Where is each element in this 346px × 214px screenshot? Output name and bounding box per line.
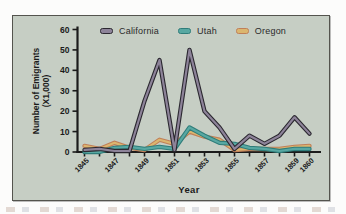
legend-label-utah: Utah [197, 26, 217, 36]
legend-label-california: California [119, 26, 159, 36]
y-tick-label: 20 [60, 106, 70, 116]
figure-frame: Number of Emigrants (X1,000) 01020304050… [12, 15, 330, 201]
x-axis-label: Year [124, 184, 254, 195]
legend-swatch-utah-icon [178, 28, 191, 35]
x-tick-label: 1860 [298, 156, 316, 174]
x-tick-label: 1859 [283, 156, 301, 174]
legend-label-oregon: Oregon [255, 26, 286, 36]
y-tick-label: 0 [65, 147, 70, 157]
chart-legend: California Utah Oregon [100, 25, 286, 37]
cropped-page-text [6, 207, 340, 212]
y-tick-label: 40 [60, 65, 70, 75]
legend-item-california: California [100, 26, 159, 36]
y-tick-label: 10 [60, 127, 70, 137]
chart-plot: 0102030405060184518471849185118531855185… [13, 16, 329, 200]
legend-item-utah: Utah [178, 26, 217, 36]
x-tick-label: 1851 [163, 156, 181, 174]
x-tick-label: 1857 [253, 156, 271, 174]
legend-swatch-california-icon [100, 28, 113, 35]
x-tick-label: 1845 [73, 156, 91, 174]
y-tick-label: 50 [60, 45, 70, 55]
legend-item-oregon: Oregon [236, 26, 286, 36]
y-tick-label: 30 [60, 86, 70, 96]
legend-swatch-oregon-icon [236, 28, 249, 35]
page: { "figure": { "y_axis_label_line1": "Num… [0, 0, 346, 214]
y-tick-label: 60 [60, 25, 70, 35]
x-tick-label: 1855 [223, 156, 241, 174]
x-tick-label: 1847 [103, 156, 121, 174]
x-tick-label: 1853 [193, 156, 211, 174]
x-tick-label: 1849 [133, 156, 151, 174]
